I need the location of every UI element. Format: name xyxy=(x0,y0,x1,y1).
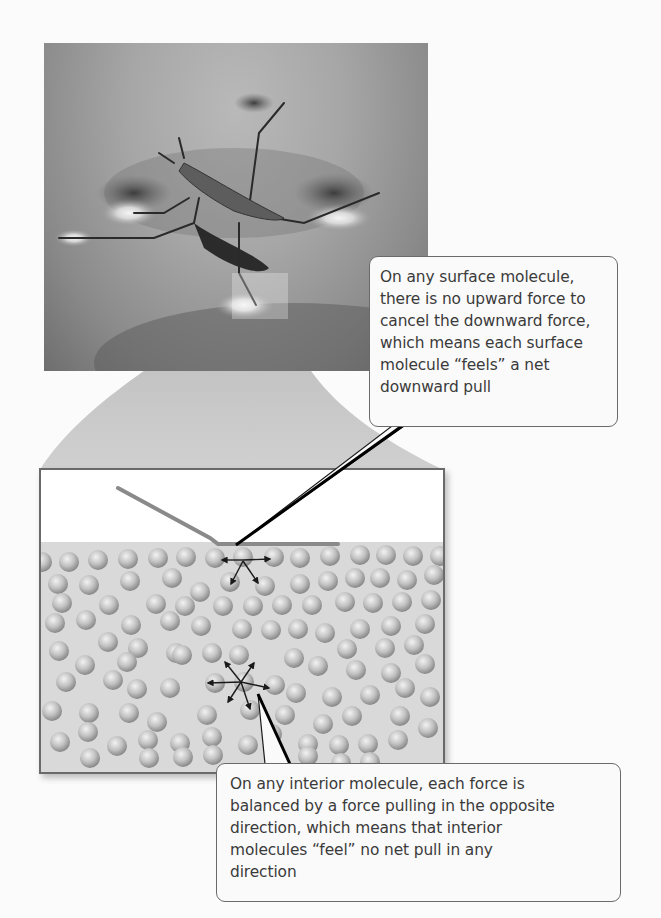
interior-molecule-callout: On any interior molecule, each force is … xyxy=(216,763,621,902)
interior-callout-line: balanced by a force pulling in the oppos… xyxy=(230,795,612,817)
surface-callout-line: which means each surface xyxy=(380,332,609,354)
surface-molecule-callout: On any surface molecule, there is no upw… xyxy=(369,256,618,427)
surface-callout-line: downward pull xyxy=(380,376,609,398)
interior-callout-line: On any interior molecule, each force is xyxy=(230,773,612,795)
surface-callout-line: there is no upward force to xyxy=(380,288,609,310)
interior-callout-line: direction, which means that interior xyxy=(230,817,612,839)
surface-callout-line: On any surface molecule, xyxy=(380,266,609,288)
interior-callout-line: direction xyxy=(230,861,612,883)
surface-callout-line: molecule “feels” a net xyxy=(380,354,609,376)
surface-callout-line: cancel the downward force, xyxy=(380,310,609,332)
interior-callout-line: molecules “feel” no net pull in any xyxy=(230,839,612,861)
